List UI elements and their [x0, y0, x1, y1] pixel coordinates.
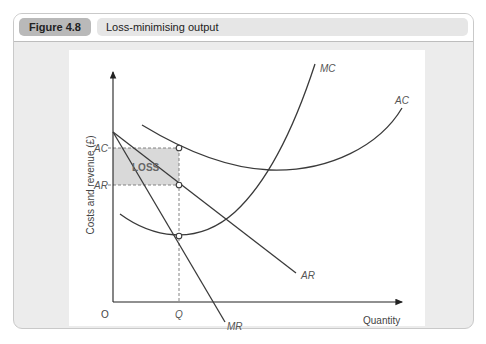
x-axis-label: Quantity [363, 315, 400, 326]
ar-label: AR [300, 270, 315, 281]
mc-mr-intersection-marker [176, 233, 182, 239]
q-label: Q [175, 309, 183, 320]
mc-label: MC [320, 63, 336, 74]
loss-label: LOSS [132, 162, 160, 173]
chart-svg: MC AC AR MR AC AR Q LOSS O Quantity Cost… [0, 0, 486, 344]
ar-line [113, 132, 296, 273]
mr-label: MR [227, 321, 243, 332]
ac-at-q-marker [176, 145, 182, 151]
ar-at-q-marker [176, 182, 182, 188]
y-axis-label: Costs and revenue (£) [85, 136, 96, 235]
ac-label: AC [394, 95, 410, 106]
ac-curve [142, 108, 402, 170]
origin-label: O [101, 309, 109, 320]
